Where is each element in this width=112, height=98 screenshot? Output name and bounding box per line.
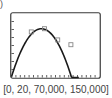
viewing-window-label: [0, 20, 70,000, 150,000] — [0, 84, 112, 96]
part-label: ) — [0, 0, 3, 9]
calculator-graph-screen — [10, 12, 101, 79]
